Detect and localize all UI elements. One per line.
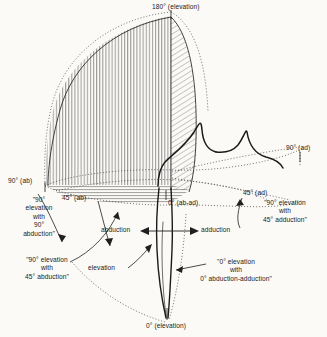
label-0-elevation: 0° (elevation) (146, 322, 186, 330)
label-0-abduction-adduction: 0° (ab-ad) (168, 199, 198, 207)
callout-90-elevation-45-abduction: "90° elevation with 45° abduction" (4, 256, 90, 281)
elevation-arrowhead (145, 244, 152, 253)
label-90-abduction: 90° (ab) (8, 177, 32, 185)
label-45-adduction: 45° (ad) (243, 189, 267, 197)
label-elevation-arrow: elevation (88, 264, 115, 272)
callout-0-elevation-0-abduction-adduction: "0° elevation with 0° abduction-adductio… (185, 258, 287, 283)
label-abduction-arrow: abduction (101, 226, 130, 234)
callout-90-elevation-90-abduction: "90° elevation with 90° abduction" (2, 196, 76, 238)
diagram-canvas (0, 0, 327, 337)
label-180-elevation: 180° (elevation) (152, 3, 262, 11)
label-adduction-arrow: adduction (201, 226, 230, 234)
hanging-arm (157, 188, 173, 318)
callout-90-elevation-45-adduction: "90° elevation with 45° adduction" (243, 199, 327, 224)
range-of-motion-diagram: 180° (elevation) 90° (ab) 45° (ab) 90° (… (0, 0, 327, 337)
label-90-adduction: 90° (ad) (286, 144, 310, 152)
